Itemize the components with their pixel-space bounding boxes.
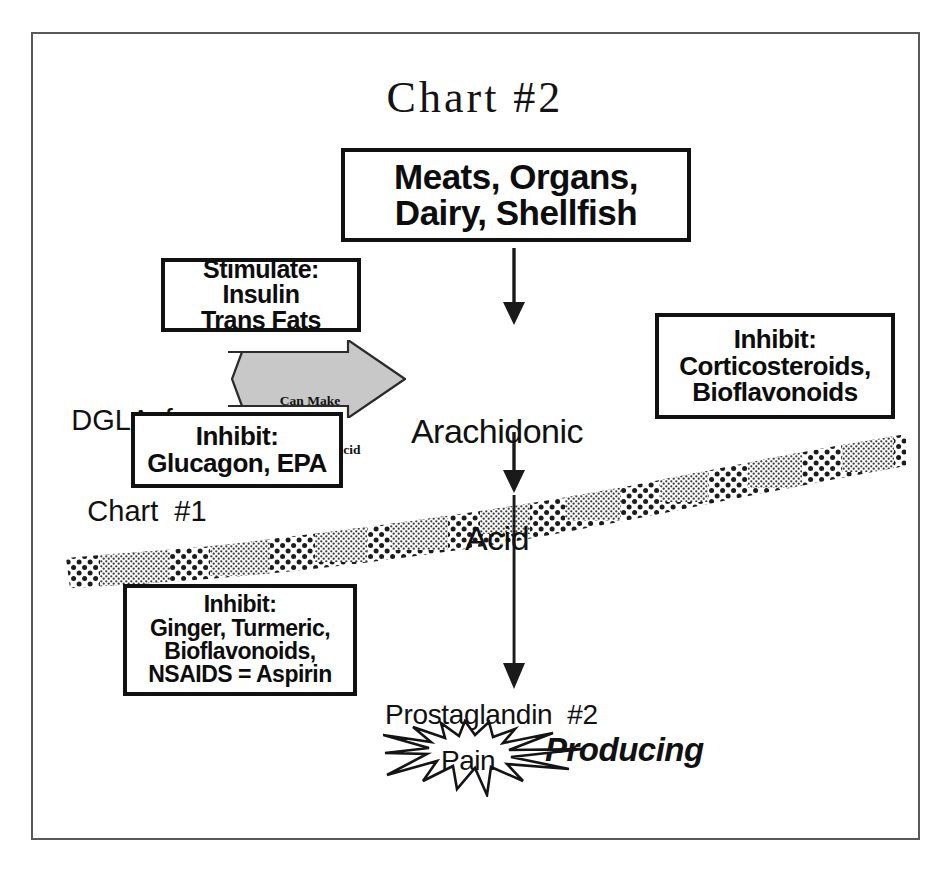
modifier-inhibit-glucagon-line-1: Glucagon, EPA: [147, 450, 326, 477]
connector-can-make-arachidonic-acid: Can Make Arachidonic Acid: [228, 340, 406, 418]
modifier-stimulate-heading: Stimulate:: [203, 257, 319, 283]
node-dgla-line-2: Chart #1: [52, 496, 242, 526]
node-arachidonic-acid-line-2: Acid: [392, 521, 602, 557]
modifier-inhibit-ginger-line-1: Ginger, Turmeric,: [150, 617, 330, 640]
modifier-inhibit-ginger: Inhibit: Ginger, Turmeric, Bioflavonoids…: [123, 584, 357, 696]
modifier-inhibit-glucagon-heading: Inhibit:: [196, 423, 279, 450]
arrow-source-to-arachidonic-acid: [500, 248, 528, 326]
diagram-canvas: Chart #2 Meats, Organs, Dairy, Shellfish…: [0, 0, 950, 875]
modifier-inhibit-corticosteroids-heading: Inhibit:: [734, 326, 817, 353]
node-dietary-sources: Meats, Organs, Dairy, Shellfish: [341, 148, 691, 242]
modifier-stimulate: Stimulate: Insulin Trans Fats: [161, 258, 361, 332]
modifier-inhibit-ginger-heading: Inhibit:: [204, 593, 277, 616]
modifier-inhibit-ginger-line-3: NSAIDS = Aspirin: [148, 663, 332, 686]
page-title: Chart #2: [0, 72, 950, 123]
modifier-inhibit-corticosteroids: Inhibit: Corticosteroids, Bioflavonoids: [655, 313, 895, 419]
modifier-inhibit-ginger-line-2: Bioflavonoids,: [164, 640, 315, 663]
connector-can-make-line-1: Can Make: [246, 393, 374, 409]
pain-starburst: Pain: [383, 719, 583, 797]
modifier-inhibit-glucagon: Inhibit: Glucagon, EPA: [131, 412, 343, 488]
modifier-stimulate-line-2: Trans Fats: [201, 308, 321, 334]
node-arachidonic-acid-line-1: Arachidonic: [392, 414, 602, 450]
node-arachidonic-acid: Arachidonic Acid: [392, 343, 602, 629]
node-dietary-sources-line-1: Meats, Organs,: [394, 159, 638, 195]
pain-starburst-label: Pain: [383, 745, 583, 777]
node-dietary-sources-line-2: Dairy, Shellfish: [395, 195, 637, 231]
modifier-stimulate-line-1: Insulin: [222, 282, 299, 308]
modifier-inhibit-corticosteroids-line-1: Corticosteroids,: [679, 353, 870, 380]
modifier-inhibit-corticosteroids-line-2: Bioflavonoids: [692, 379, 857, 406]
